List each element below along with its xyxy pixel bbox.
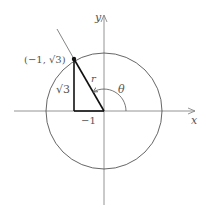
angle-label: θ [118, 83, 125, 96]
x-axis-label: x [191, 114, 198, 127]
point-label: (−1, √3) [24, 54, 66, 65]
polar-diagram: y x (−1, √3) √3 −1 r θ [0, 0, 208, 214]
horizontal-side-label: −1 [81, 115, 96, 126]
y-axis-label: y [94, 11, 102, 24]
hypotenuse-label: r [91, 73, 97, 84]
vertical-side-label: √3 [56, 83, 70, 96]
triangle-hypotenuse [74, 59, 104, 111]
point-marker [72, 57, 76, 61]
